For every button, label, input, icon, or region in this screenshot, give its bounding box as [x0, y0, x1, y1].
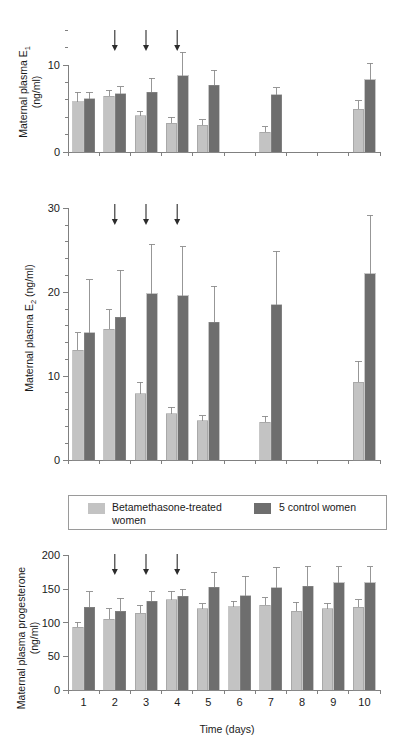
- treatment-arrow: [143, 204, 149, 225]
- bar-treated: [229, 607, 240, 690]
- bar-control: [178, 296, 189, 460]
- bar-treated: [353, 109, 364, 152]
- bar-treated: [73, 627, 84, 690]
- legend-swatch-control: [254, 503, 271, 514]
- y-tick-label: 150: [42, 583, 60, 595]
- bar-control: [271, 588, 282, 690]
- arrow-head: [174, 45, 180, 51]
- y-tick-label: 0: [54, 454, 60, 466]
- p4-svg: Betamethasone-treated women 5 control wo…: [0, 490, 393, 740]
- bar-control: [147, 294, 158, 460]
- treatment-arrow: [112, 30, 118, 51]
- bar-control: [209, 587, 220, 690]
- bar-treated: [353, 382, 364, 460]
- bar-treated: [260, 605, 271, 690]
- bar-treated: [291, 611, 302, 690]
- e2-ylabel-group: Maternal plasma E2 (ng/ml): [23, 264, 38, 391]
- y-tick-label: 10: [48, 370, 60, 382]
- treatment-arrow: [174, 30, 180, 51]
- bar-control: [365, 274, 376, 460]
- x-tick-label: 8: [299, 696, 305, 708]
- e1-axis-title-line2: (ng/ml): [30, 76, 42, 109]
- legend-swatch-treated: [88, 503, 105, 514]
- arrow-head: [143, 219, 149, 225]
- bar-control: [115, 317, 126, 460]
- p4-xaxis-title: Time (days): [199, 723, 254, 735]
- y-tick-label: 0: [54, 146, 60, 158]
- bar-treated: [322, 609, 333, 690]
- arrow-head: [174, 569, 180, 575]
- bar-control: [84, 607, 95, 690]
- p4-axis-title-line1: Maternal plasma progesterone: [15, 567, 27, 710]
- legend-label-treated-line2: women: [111, 514, 146, 526]
- x-tick-label: 1: [81, 696, 87, 708]
- y-tick-label: 50: [48, 650, 60, 662]
- bar-treated: [135, 613, 146, 690]
- bar-treated: [197, 421, 208, 460]
- e1-treatment-arrows: [112, 30, 180, 51]
- p4-axis-title-line2: (ng/ml): [28, 622, 40, 655]
- bar-control: [147, 601, 158, 690]
- bar-treated: [353, 607, 364, 690]
- x-tick-label: 4: [174, 696, 180, 708]
- figure-root: Maternal plasma E1 (ng/ml) 010 Maternal …: [0, 0, 393, 740]
- treatment-arrow: [112, 204, 118, 225]
- y-tick-label: 20: [48, 286, 60, 298]
- bar-treated: [104, 329, 115, 460]
- bar-treated: [166, 123, 177, 152]
- bar-control: [178, 596, 189, 690]
- chart-panel-e2: Maternal plasma E2 (ng/ml) 0102030: [0, 178, 393, 478]
- arrow-head: [143, 569, 149, 575]
- y-tick-label: 10: [48, 59, 60, 71]
- e1-bars: [73, 52, 376, 152]
- treatment-arrow: [143, 30, 149, 51]
- arrow-head: [174, 219, 180, 225]
- x-tick-label: 6: [237, 696, 243, 708]
- legend-label-treated-line1: Betamethasone-treated: [112, 501, 222, 513]
- bar-control: [115, 611, 126, 690]
- bar-treated: [73, 350, 84, 460]
- chart-panel-progesterone: Betamethasone-treated women 5 control wo…: [0, 490, 393, 740]
- bar-control: [365, 583, 376, 690]
- bar-treated: [197, 125, 208, 152]
- x-tick-label: 7: [268, 696, 274, 708]
- bar-control: [240, 596, 251, 690]
- bar-control: [209, 322, 220, 460]
- bar-treated: [104, 96, 115, 152]
- arrow-head: [143, 45, 149, 51]
- arrow-head: [112, 45, 118, 51]
- p4-treatment-arrows: [112, 554, 180, 575]
- bar-control: [334, 583, 345, 690]
- bar-treated: [135, 394, 146, 460]
- p4-xtick-labels: 12345678910: [81, 696, 371, 708]
- legend-label-control: 5 control women: [279, 501, 356, 513]
- bar-treated: [166, 414, 177, 460]
- bar-control: [84, 99, 95, 152]
- treatment-arrow: [174, 204, 180, 225]
- y-tick-label: 0: [54, 684, 60, 696]
- x-tick-label: 2: [112, 696, 118, 708]
- bar-treated: [73, 102, 84, 152]
- y-tick-label: 30: [48, 202, 60, 214]
- bar-treated: [197, 609, 208, 690]
- e2-axis-title: Maternal plasma E2 (ng/ml): [23, 264, 38, 391]
- bar-treated: [260, 132, 271, 152]
- e2-svg: Maternal plasma E2 (ng/ml) 0102030: [0, 178, 393, 478]
- bar-treated: [104, 619, 115, 690]
- bar-treated: [166, 600, 177, 690]
- y-tick-label: 100: [42, 617, 60, 629]
- x-tick-label: 5: [205, 696, 211, 708]
- y-tick-label: 200: [42, 549, 60, 561]
- x-tick-label: 3: [143, 696, 149, 708]
- bar-treated: [135, 116, 146, 152]
- bar-control: [147, 92, 158, 152]
- chart-panel-e1: Maternal plasma E1 (ng/ml) 010: [0, 0, 393, 178]
- bar-control: [115, 94, 126, 152]
- x-tick-label: 9: [330, 696, 336, 708]
- bar-control: [84, 333, 95, 460]
- bar-control: [178, 76, 189, 152]
- treatment-arrow: [143, 554, 149, 575]
- bar-control: [303, 586, 314, 690]
- legend: Betamethasone-treated women 5 control wo…: [68, 495, 386, 529]
- arrow-head: [112, 569, 118, 575]
